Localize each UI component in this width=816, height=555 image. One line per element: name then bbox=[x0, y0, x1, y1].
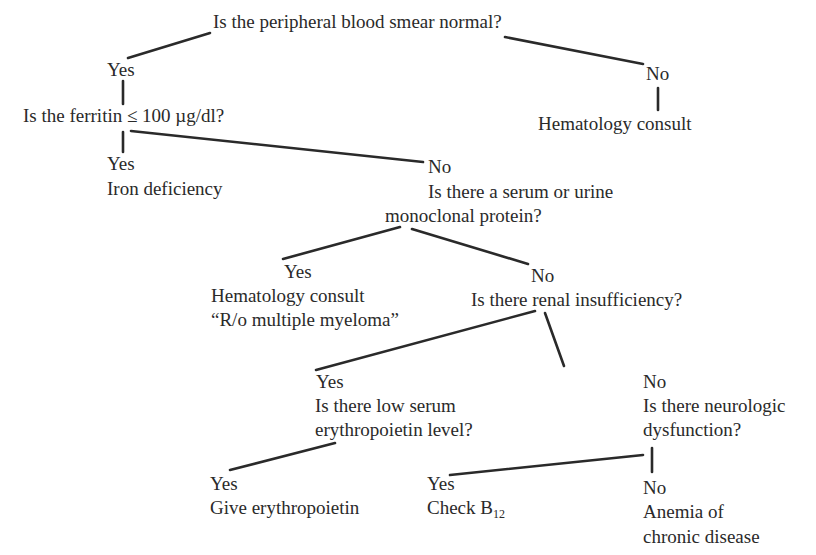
edge-ferritin-no bbox=[131, 131, 423, 162]
edge-neuro-yes bbox=[450, 455, 643, 475]
root-no-result: Hematology consult bbox=[538, 112, 692, 136]
root-yes-label: Yes bbox=[107, 58, 135, 82]
neuro-yes-result-subscript: 12 bbox=[493, 507, 505, 521]
epo-question-line2: erythropoietin level? bbox=[315, 418, 473, 442]
monoclonal-question-line2: monoclonal protein? bbox=[385, 204, 542, 228]
root-no-label: No bbox=[646, 62, 669, 86]
root-question: Is the peripheral blood smear normal? bbox=[213, 10, 502, 34]
monoclonal-yes-result-line1: Hematology consult bbox=[211, 284, 365, 308]
neuro-no-result-line1: Anemia of bbox=[643, 500, 724, 524]
epo-question-line1: Is there low serum bbox=[315, 394, 456, 418]
edge-monoclonal-no bbox=[412, 229, 528, 264]
neuro-no-result-line2: chronic disease bbox=[643, 525, 760, 549]
neuro-no-label: No bbox=[643, 476, 666, 500]
ferritin-yes-result: Iron deficiency bbox=[107, 177, 223, 201]
ferritin-question: Is the ferritin ≤ 100 µg/dl? bbox=[23, 104, 224, 128]
epo-yes-result: Give erythropoietin bbox=[210, 496, 359, 520]
ferritin-yes-label: Yes bbox=[107, 152, 135, 176]
monoclonal-yes-label: Yes bbox=[284, 260, 312, 284]
neuro-yes-result-text: Check B bbox=[427, 497, 493, 518]
edge-root-no bbox=[505, 37, 643, 64]
edge-monoclonal-yes bbox=[283, 227, 400, 259]
edge-epo-yes bbox=[230, 443, 335, 470]
monoclonal-yes-result-line2: “R/o multiple myeloma” bbox=[211, 308, 399, 332]
connector-lines bbox=[0, 0, 816, 555]
neuro-question-line1: Is there neurologic bbox=[643, 394, 785, 418]
renal-no-label: No bbox=[643, 370, 666, 394]
neuro-question-line2: dysfunction? bbox=[643, 418, 741, 442]
renal-question: Is there renal insufficiency? bbox=[471, 288, 682, 312]
neuro-yes-result: Check B12 bbox=[427, 496, 505, 520]
anemia-decision-tree: Is the peripheral blood smear normal? No… bbox=[0, 0, 816, 555]
neuro-yes-label: Yes bbox=[427, 472, 455, 496]
ferritin-no-label: No bbox=[428, 155, 451, 179]
monoclonal-no-label: No bbox=[531, 264, 554, 288]
edge-root-yes bbox=[128, 33, 210, 58]
edge-renal-no bbox=[545, 313, 564, 366]
monoclonal-question-line1: Is there a serum or urine bbox=[428, 180, 613, 204]
renal-yes-label: Yes bbox=[316, 370, 344, 394]
epo-yes-label: Yes bbox=[210, 472, 238, 496]
